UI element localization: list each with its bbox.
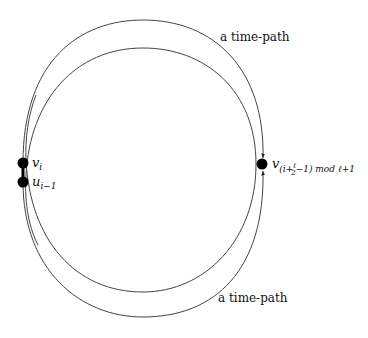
label-v-right: v(i+ℓ2−1) mod ℓ+1 bbox=[272, 156, 355, 177]
label-v-i: vi bbox=[32, 155, 42, 172]
label-u-i-minus-1: ui−1 bbox=[32, 174, 57, 191]
node-v-i bbox=[18, 158, 29, 169]
label-top-time-path: a time-path bbox=[220, 30, 290, 44]
inner-top-arc bbox=[26, 48, 256, 245]
node-u-i-minus-1 bbox=[18, 177, 29, 188]
label-bottom-time-path: a time-path bbox=[218, 291, 288, 305]
diagram-canvas: vi ui−1 v(i+ℓ2−1) mod ℓ+1 a time-path a … bbox=[0, 0, 368, 338]
inner-bottom-arc bbox=[26, 95, 256, 292]
node-v-right bbox=[257, 159, 268, 170]
